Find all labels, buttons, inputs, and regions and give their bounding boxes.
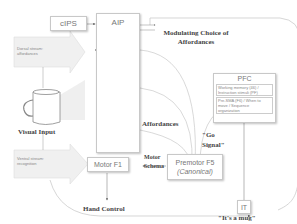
motor-f1-label: Motor F1 <box>88 158 128 172</box>
cips-label: cIPS <box>51 17 86 31</box>
premotor-f5-node: Premotor F5 (Canonical) <box>167 154 223 180</box>
it-node: IT <box>237 200 251 214</box>
premotor-f5-sublabel: (Canonical) <box>168 167 222 176</box>
premotor-f5-label: Premotor F5 <box>168 158 222 167</box>
motor-f1-node: Motor F1 <box>87 157 129 172</box>
aip-label: AIP <box>97 18 139 27</box>
its-a-mug-label: "It's a mug" <box>218 214 256 222</box>
pfc-pre-sma: Pre-SMA (F6) / When to move / Sequence o… <box>216 97 273 114</box>
it-label: IT <box>238 201 250 214</box>
go-signal-label: "Go Signal" <box>202 130 230 150</box>
affordances-label: Affordances <box>142 120 179 128</box>
pfc-working-memory: Working memory (46) / Instruction stimul… <box>216 84 273 96</box>
visual-input-label: Visual Input <box>18 128 55 136</box>
aip-node: AIP <box>96 13 140 153</box>
ventral-stream-label: Ventral stream: recognition <box>17 156 61 166</box>
dorsal-stream-label: Dorsal stream: affordances <box>17 46 59 56</box>
hand-control-label: Hand Control <box>83 205 125 213</box>
pfc-node: PFC Working memory (46) / Instruction st… <box>213 73 276 123</box>
motor-schema-label: Motor Schema <box>144 153 168 171</box>
pfc-label: PFC <box>216 75 273 83</box>
modulating-choice-label: Modulating Choice of Affordances <box>155 29 237 47</box>
cips-node: cIPS <box>50 16 87 31</box>
